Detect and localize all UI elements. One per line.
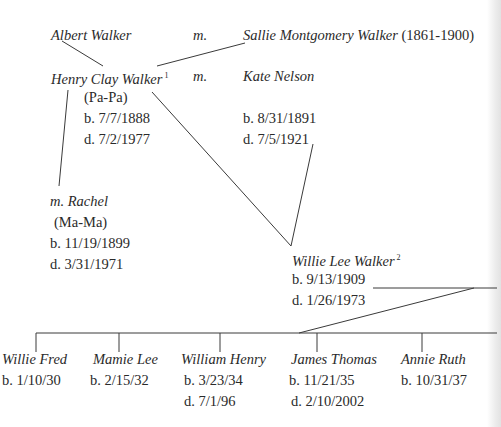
henry-footnote-marker: 1 [164, 71, 168, 80]
rachel-nickname: (Ma-Ma) [54, 214, 107, 230]
child-name-james-thomas: James Thomas [291, 351, 377, 367]
child-name-annie-ruth: Annie Ruth [401, 351, 466, 367]
rachel-died: d. 3/31/1971 [50, 256, 123, 272]
kate-born: b. 8/31/1891 [243, 110, 316, 126]
marriage-label-gen1: m. [193, 27, 207, 43]
child-born-william-henry: b. 3/23/34 [184, 372, 243, 388]
rachel-name: m. Rachel [50, 193, 108, 209]
willie-lee-walker-name: Willie Lee Walker [292, 253, 395, 269]
henry-walker-name: Henry Clay Walker [51, 71, 162, 87]
child-name-william-henry: William Henry [181, 351, 266, 367]
line-kate-to-willie-lee [291, 144, 313, 246]
willie-lee-walker-entry: Willie Lee Walker2 [292, 250, 401, 269]
kate-died: d. 7/5/1921 [243, 131, 309, 147]
henry-walker-entry: Henry Clay Walker1 [51, 68, 168, 87]
henry-born: b. 7/7/1888 [84, 110, 150, 126]
child-died-james-thomas: d. 2/10/2002 [291, 393, 364, 409]
child-name-willie-fred: Willie Fred [2, 351, 67, 367]
kate-nelson-name: Kate Nelson [243, 68, 314, 84]
line-albert-to-henry [62, 41, 103, 66]
sallie-walker-name: Sallie Montgomery Walker [243, 27, 398, 43]
sallie-walker-entry: Sallie Montgomery Walker (1861-1900) [243, 27, 474, 43]
child-born-james-thomas: b. 11/21/35 [289, 372, 355, 388]
line-sallie-to-henry [157, 43, 245, 66]
henry-died: d. 7/2/1977 [84, 131, 150, 147]
marriage-label-gen2: m. [193, 68, 207, 84]
willie-lee-born: b. 9/13/1909 [292, 271, 365, 287]
child-born-annie-ruth: b. 10/31/37 [401, 372, 467, 388]
child-died-william-henry: d. 7/1/96 [184, 393, 236, 409]
child-born-willie-fred: b. 1/10/30 [2, 372, 61, 388]
sallie-walker-years: (1861-1900) [402, 27, 475, 43]
child-name-mamie-lee: Mamie Lee [93, 351, 158, 367]
willie-lee-died: d. 1/26/1973 [292, 292, 365, 308]
rachel-born: b. 11/19/1899 [50, 235, 130, 251]
henry-nickname: (Pa-Pa) [84, 89, 128, 105]
willie-lee-footnote-marker: 2 [397, 253, 401, 262]
line-henry-to-rachel [59, 90, 68, 186]
albert-walker-name: Albert Walker [51, 27, 131, 43]
child-born-mamie-lee: b. 2/15/32 [90, 372, 149, 388]
